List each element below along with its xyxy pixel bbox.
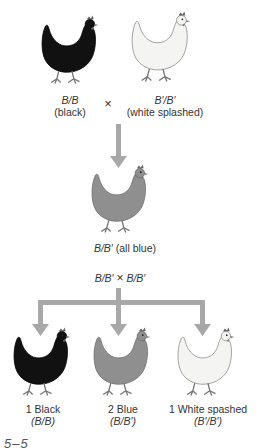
f1-genotype: B/B′ bbox=[94, 242, 113, 254]
offspring-2-count: 2 Blue bbox=[88, 403, 158, 415]
offspring-1-genotype: (B/B) bbox=[8, 415, 78, 427]
parent-right-phenotype: (white splashed) bbox=[112, 106, 218, 118]
blue-hen-offspring-icon bbox=[90, 326, 156, 398]
f1-cross-left: B/B′ bbox=[95, 272, 114, 284]
f1-cross: B/B′ × B/B′ bbox=[70, 272, 170, 284]
f1-label: B/B′ (all blue) bbox=[70, 242, 180, 254]
white-splashed-hen-parent-icon bbox=[128, 10, 196, 84]
blue-hen-f1-icon bbox=[88, 162, 154, 236]
f1-cross-symbol: × bbox=[116, 271, 123, 285]
parent-right-genotype: B′/B′ bbox=[120, 94, 210, 106]
offspring-2-genotype: (B/B′) bbox=[88, 415, 158, 427]
offspring-1-count: 1 Black bbox=[8, 403, 78, 415]
parent-left-genotype: B/B bbox=[40, 94, 100, 106]
parent-left-phenotype: (black) bbox=[40, 106, 100, 118]
black-hen-offspring-icon bbox=[10, 326, 76, 398]
f1-cross-right: B/B′ bbox=[126, 272, 145, 284]
white-splashed-hen-offspring-icon bbox=[174, 326, 240, 398]
figure-label: 5–5 bbox=[4, 436, 29, 448]
offspring-3-genotype: (B′/B′) bbox=[168, 415, 248, 427]
offspring-3-count: 1 White spashed bbox=[160, 403, 256, 415]
black-hen-parent-icon bbox=[38, 14, 104, 86]
f1-phenotype: (all blue) bbox=[116, 242, 156, 254]
